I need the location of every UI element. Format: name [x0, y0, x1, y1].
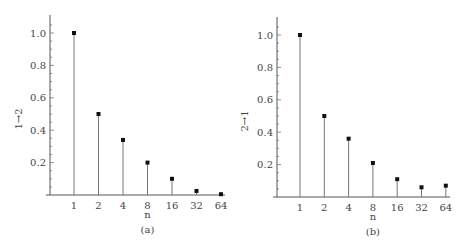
panel-label: (b): [366, 226, 380, 237]
x-tick-label: 2: [95, 200, 101, 211]
data-point: [298, 33, 302, 37]
y-tick-label: 0.6: [30, 92, 46, 103]
y-tick-label: 0.6: [257, 94, 273, 105]
data-point: [371, 161, 375, 165]
x-tick-label: 2: [321, 202, 327, 213]
x-tick-label: 1: [297, 202, 303, 213]
y-tick-label: 0.8: [257, 62, 273, 73]
data-point: [347, 137, 351, 141]
x-tick-label: 4: [345, 202, 351, 213]
x-tick-label: 16: [391, 202, 404, 213]
chart-panel-b: 0.20.40.60.81.01248163264n(b)2→1: [239, 17, 452, 237]
y-tick-label: 0.8: [30, 60, 46, 71]
chart-panel-a: 0.20.40.60.81.01248163264n(a)1→2: [13, 15, 227, 235]
x-tick-label: 32: [415, 202, 428, 213]
x-axis-label: n: [144, 209, 151, 220]
data-point: [219, 192, 223, 196]
y-axis-label: 1→2: [13, 108, 24, 129]
x-tick-label: 1: [71, 200, 77, 211]
data-point: [170, 177, 174, 181]
y-tick-label: 0.2: [30, 157, 46, 168]
y-tick-label: 0.4: [257, 127, 273, 138]
data-point: [146, 161, 150, 165]
panel-label: (a): [141, 224, 155, 235]
y-tick-label: 1.0: [257, 30, 273, 41]
stem-charts: 0.20.40.60.81.01248163264n(a)1→20.20.40.…: [0, 0, 470, 251]
y-tick-label: 0.2: [257, 159, 273, 170]
x-axis-label: n: [370, 211, 377, 222]
y-axis-label: 2→1: [239, 110, 250, 131]
x-tick-label: 4: [120, 200, 126, 211]
x-tick-label: 32: [190, 200, 203, 211]
x-tick-label: 64: [215, 200, 228, 211]
data-point: [121, 138, 125, 142]
data-point: [444, 184, 448, 188]
data-point: [72, 31, 76, 35]
data-point: [97, 112, 101, 116]
data-point: [420, 185, 424, 189]
y-tick-label: 1.0: [30, 28, 46, 39]
x-tick-label: 16: [166, 200, 179, 211]
data-point: [395, 177, 399, 181]
x-tick-label: 64: [439, 202, 452, 213]
data-point: [195, 189, 199, 193]
y-tick-label: 0.4: [30, 125, 46, 136]
data-point: [322, 114, 326, 118]
